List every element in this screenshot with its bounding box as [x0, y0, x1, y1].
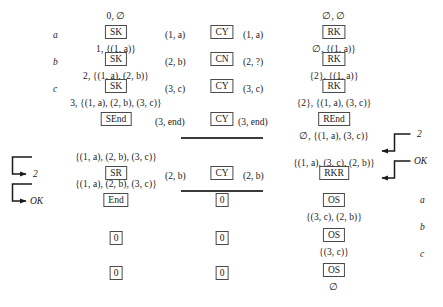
- sender-box-sk-2[interactable]: SK: [105, 52, 127, 66]
- receiver-state-8: ∅: [329, 283, 338, 293]
- row-label-right-b: b: [420, 223, 425, 233]
- channel-msg-out-2: (2, ?): [243, 58, 263, 68]
- receiver-state-3: {2}, {(1, a), (3, c)}: [297, 99, 372, 109]
- receiver-box-os-1[interactable]: OS: [323, 193, 345, 207]
- sender-state-5: {(1, a), (2, b), (3, c)}: [75, 180, 157, 190]
- channel-box-cy-4[interactable]: CY: [210, 166, 233, 180]
- feedback-label-left-ok: OK: [30, 197, 43, 207]
- sender-box-zero-1[interactable]: 0: [110, 231, 123, 245]
- receiver-state-6: {(3, c), (2, b)}: [306, 213, 362, 223]
- sender-box-zero-2[interactable]: 0: [110, 266, 123, 280]
- channel-msg-in-3: (3, c): [165, 85, 185, 95]
- channel-msg-out-3: (3, c): [243, 85, 263, 95]
- sender-box-sr[interactable]: SR: [105, 166, 127, 180]
- channel-box-cy-1[interactable]: CY: [210, 25, 233, 39]
- channel-box-zero-1[interactable]: 0: [216, 193, 229, 207]
- channel-box-zero-3[interactable]: 0: [216, 266, 229, 280]
- channel-msg-out-5: (2, b): [243, 172, 264, 182]
- row-label-right-c: c: [420, 250, 424, 260]
- receiver-box-os-3[interactable]: OS: [323, 263, 345, 277]
- row-label-left-c: c: [53, 85, 57, 95]
- row-label-left-a: a: [53, 31, 58, 41]
- receiver-box-rkr[interactable]: RKR: [319, 166, 349, 180]
- row-label-left-b: b: [53, 58, 58, 68]
- channel-msg-in-2: (2, b): [165, 58, 186, 68]
- receiver-box-rk-2[interactable]: RK: [322, 52, 345, 66]
- receiver-state-0: ∅, ∅: [322, 12, 345, 22]
- sender-box-sk-3[interactable]: SK: [105, 79, 127, 93]
- receiver-box-rk-3[interactable]: RK: [322, 79, 345, 93]
- feedback-arrow-right-ok: [382, 161, 411, 178]
- feedback-arrow-left-2: [13, 157, 33, 174]
- channel-separator-1: [181, 137, 263, 139]
- channel-box-cy-3[interactable]: CY: [210, 112, 233, 126]
- channel-msg-in-4: (3, end): [155, 118, 185, 128]
- receiver-box-rend[interactable]: REnd: [318, 112, 350, 126]
- channel-msg-out-1: (1, a): [243, 31, 263, 41]
- feedback-arrows-layer: [0, 0, 443, 307]
- receiver-box-rk-1[interactable]: RK: [322, 25, 345, 39]
- sender-state-0: 0, ∅: [107, 12, 126, 22]
- feedback-label-left-2: 2: [33, 170, 38, 180]
- sender-box-sk-1[interactable]: SK: [105, 25, 127, 39]
- row-label-right-a: a: [420, 196, 425, 206]
- channel-box-zero-2[interactable]: 0: [216, 231, 229, 245]
- channel-box-cy-2[interactable]: CY: [210, 79, 233, 93]
- diagram-canvas: a b c a b c 0, ∅ 1, {(1, a)} 2, {(1, a),…: [0, 0, 443, 307]
- sender-state-3: 3, {(1, a), (2, b), (3, c)}: [70, 99, 161, 109]
- channel-msg-in-1: (1, a): [165, 31, 185, 41]
- channel-separator-2: [181, 190, 263, 192]
- channel-msg-in-5: (2, b): [165, 172, 186, 182]
- receiver-state-4: ∅, {(1, a), (3, c)}: [299, 132, 369, 142]
- feedback-arrow-right-2: [382, 134, 411, 151]
- channel-box-cn[interactable]: CN: [210, 52, 233, 66]
- receiver-state-7: {(3, c)}: [319, 248, 349, 258]
- sender-box-send[interactable]: SEnd: [101, 112, 132, 126]
- channel-msg-out-4: (3, end): [238, 118, 268, 128]
- receiver-box-os-2[interactable]: OS: [323, 228, 345, 242]
- sender-box-end[interactable]: End: [103, 193, 128, 207]
- feedback-label-right-ok: OK: [414, 157, 427, 167]
- sender-state-4: {(1, a), (2, b), (3, c)}: [75, 153, 157, 163]
- feedback-label-right-2: 2: [417, 130, 422, 140]
